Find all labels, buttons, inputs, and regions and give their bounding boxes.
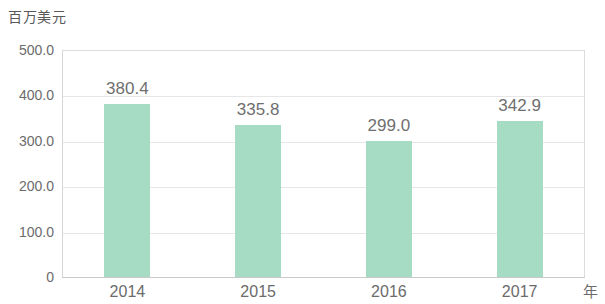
bars-layer: 380.4335.8299.0342.9 — [62, 50, 585, 277]
bar-group[interactable]: 380.4 — [104, 50, 150, 277]
bar[interactable] — [497, 121, 543, 277]
bar[interactable] — [366, 141, 412, 277]
x-axis-unit-label: 年 — [583, 283, 598, 301]
bar-group[interactable]: 342.9 — [497, 50, 543, 277]
x-axis-tick: 2015 — [240, 283, 276, 301]
bar[interactable] — [104, 104, 150, 277]
x-axis-tick: 2017 — [502, 283, 538, 301]
y-axis-tick: 500.0 — [19, 43, 54, 57]
y-axis-tick: 100.0 — [19, 225, 54, 239]
bar[interactable] — [235, 125, 281, 277]
bar-value-label: 342.9 — [498, 97, 541, 115]
y-axis-tick: 400.0 — [19, 88, 54, 102]
y-axis-tick: 200.0 — [19, 179, 54, 193]
bar-value-label: 380.4 — [106, 80, 149, 98]
x-axis-tick: 2016 — [371, 283, 407, 301]
y-axis-tick: 300.0 — [19, 134, 54, 148]
bar-value-label: 299.0 — [368, 117, 411, 135]
bar-value-label: 335.8 — [237, 101, 280, 119]
bar-group[interactable]: 335.8 — [235, 50, 281, 277]
x-axis-tick: 2014 — [110, 283, 146, 301]
y-axis-unit-label: 百万美元 — [8, 9, 66, 25]
x-axis-baseline — [62, 277, 585, 278]
y-axis-tick: 0 — [46, 270, 54, 284]
bar-chart: 百万美元 500.0400.0300.0200.0100.00 380.4335… — [0, 0, 605, 304]
bar-group[interactable]: 299.0 — [366, 50, 412, 277]
